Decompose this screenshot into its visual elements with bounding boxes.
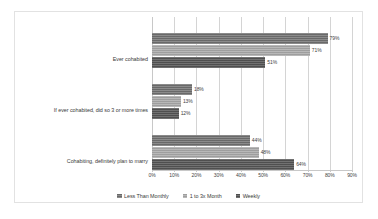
plot-area: 79% 71% 51% 18% 13% 12% 44% 48% 64% — [152, 17, 352, 170]
legend-entry-1-to-3x-month[interactable]: 1 to 3x Month — [183, 193, 222, 199]
category-label-1: If ever cohabited, did so 3 or more time… — [54, 107, 148, 113]
x-axis-line — [152, 170, 353, 171]
bar-group-0: 79% 71% 51% — [152, 33, 352, 79]
bar-2-1-to-3x-month — [152, 147, 259, 158]
category-label-0: Ever cohabited — [113, 56, 148, 62]
bar-1-weekly — [152, 108, 179, 119]
x-tick-label-60: 60% — [280, 172, 290, 178]
x-tick-label-80: 80% — [325, 172, 335, 178]
bar-2-less-than-monthly — [152, 135, 250, 146]
legend-entry-less-than-monthly[interactable]: Less Than Monthly — [117, 193, 169, 199]
legend-swatch-icon-less-than-monthly — [117, 194, 122, 199]
bar-2-weekly — [152, 159, 294, 170]
bar-value-2-less-than-monthly: 44% — [252, 135, 262, 146]
legend-label-1-to-3x-month: 1 to 3x Month — [190, 193, 222, 199]
x-tick-label-10: 10% — [169, 172, 179, 178]
legend-swatch-icon-1-to-3x-month — [183, 194, 188, 199]
bar-value-1-weekly: 12% — [181, 108, 191, 119]
bar-value-0-weekly: 51% — [267, 57, 277, 68]
category-axis-labels: Ever cohabited If ever cohabited, did so… — [18, 17, 148, 170]
x-tick-label-20: 20% — [192, 172, 202, 178]
x-tick-label-0: 0% — [148, 172, 155, 178]
x-axis-tick-labels: 0% 10% 20% 30% 40% 50% 60% 70% 80% 90% — [152, 172, 352, 184]
chart-legend: Less Than Monthly 1 to 3x Month Weekly — [14, 190, 363, 202]
category-label-2: Cohabiting, definitely plan to marry — [67, 158, 148, 164]
bar-value-0-less-than-monthly: 79% — [330, 33, 340, 44]
bar-1-less-than-monthly — [152, 84, 192, 95]
bar-value-1-less-than-monthly: 18% — [194, 84, 204, 95]
x-tick-label-90: 90% — [347, 172, 357, 178]
x-tick-label-40: 40% — [236, 172, 246, 178]
bar-value-2-weekly: 64% — [296, 159, 306, 170]
legend-swatch-icon-weekly — [236, 194, 241, 199]
bar-1-1-to-3x-month — [152, 96, 181, 107]
bar-group-1: 18% 13% 12% — [152, 84, 352, 130]
chart-container: Ever cohabited If ever cohabited, did so… — [0, 0, 378, 219]
bar-0-1-to-3x-month — [152, 45, 310, 56]
x-tick-label-50: 50% — [258, 172, 268, 178]
legend-label-less-than-monthly: Less Than Monthly — [124, 193, 169, 199]
bar-value-0-1-to-3x-month: 71% — [312, 45, 322, 56]
bar-0-weekly — [152, 57, 265, 68]
x-tick-label-70: 70% — [303, 172, 313, 178]
gridline-90 — [352, 17, 353, 170]
bar-value-1-1-to-3x-month: 13% — [183, 96, 193, 107]
legend-entry-weekly[interactable]: Weekly — [236, 193, 260, 199]
x-tick-label-30: 30% — [214, 172, 224, 178]
legend-label-weekly: Weekly — [243, 193, 260, 199]
bar-0-less-than-monthly — [152, 33, 328, 44]
bar-value-2-1-to-3x-month: 48% — [261, 147, 271, 158]
